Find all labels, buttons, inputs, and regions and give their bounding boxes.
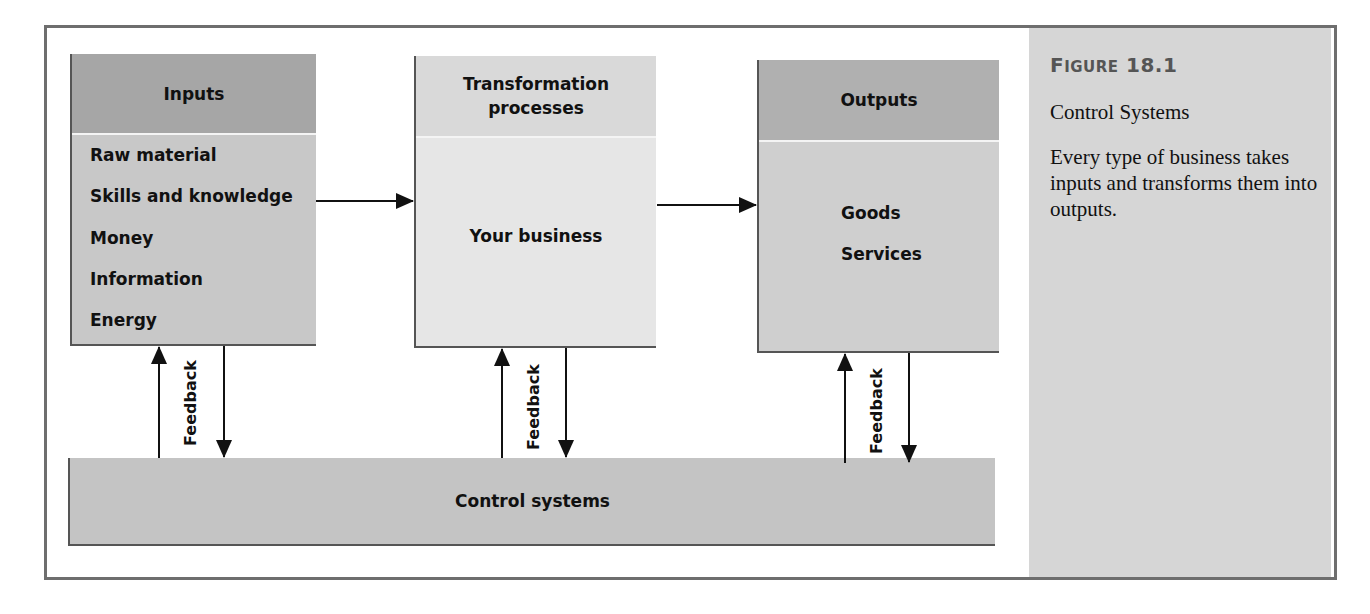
feedback-label-inputs: Feedback [181,360,200,446]
figure-number: FIGURE 18.1 [1050,53,1177,77]
figure-description: Every type of business takes inputs and … [1050,144,1320,222]
figure-prefix-rest: IGURE [1064,58,1118,76]
feedback-label-transformation: Feedback [524,364,543,450]
feedback-label-outputs: Feedback [867,368,886,454]
figure-prefix-cap: F [1050,53,1064,77]
figure-number-value: 18.1 [1126,53,1177,77]
arrows-layer [0,0,1370,614]
figure-title: Control Systems [1050,100,1189,125]
